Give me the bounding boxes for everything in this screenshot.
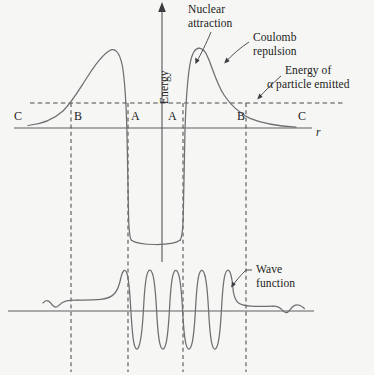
annotation-wave-function-line1: Wave xyxy=(256,263,282,276)
wave-function-left-tail xyxy=(43,300,78,307)
zone-label-c-5: C xyxy=(298,110,306,123)
energy-axis xyxy=(158,2,166,262)
wave-function-inside-well xyxy=(123,270,205,349)
potential-curve-well-floor xyxy=(131,240,180,244)
axis-label-r: r xyxy=(316,126,321,139)
zone-label-b-4: B xyxy=(237,110,245,123)
potential-barrier-diagram xyxy=(0,0,374,375)
annotation-energy-alpha-line1: Energy of xyxy=(285,64,331,77)
annotation-coulomb-repulsion-line1: Coulomb xyxy=(253,31,297,44)
axis-label-energy: Energy xyxy=(158,70,171,104)
annotation-coulomb-repulsion-line2: repulsion xyxy=(253,45,297,58)
zone-label-a-3: A xyxy=(168,110,177,123)
annotation-nuclear-attraction-line1: Nuclear xyxy=(188,3,225,16)
wave-function-inside-well-right xyxy=(205,270,233,349)
coulomb-repulsion-leader xyxy=(224,42,249,64)
annotation-wave-function-line2: function xyxy=(256,277,295,290)
zone-label-a-2: A xyxy=(131,110,140,123)
wave-function-leader xyxy=(231,270,252,288)
wave-function-left-barrier xyxy=(78,272,123,300)
potential-curve-right-wall xyxy=(180,48,199,240)
potential-curve-left-wall xyxy=(115,50,131,240)
wave-function-right-barrier xyxy=(233,292,273,306)
annotation-energy-alpha-line2: α particle emitted xyxy=(267,78,350,91)
figure-container: Energy r Nuclear attraction Coulomb repu… xyxy=(0,0,374,375)
zone-label-c-0: C xyxy=(14,110,22,123)
annotation-nuclear-attraction-line2: attraction xyxy=(188,17,232,30)
energy-axis-arrowhead xyxy=(158,2,166,12)
zone-label-b-1: B xyxy=(74,110,82,123)
